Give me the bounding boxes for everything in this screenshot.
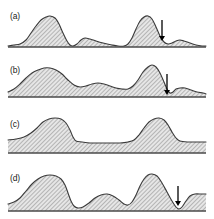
panel-d-label: (d) — [10, 174, 20, 183]
panel-a: (a) — [0, 0, 214, 54]
panel-c-label: (c) — [10, 120, 19, 129]
panel-d-plot — [0, 162, 214, 216]
panel-a-fill — [8, 16, 206, 47]
panel-a-label: (a) — [10, 12, 20, 21]
panel-b-plot — [0, 54, 214, 108]
multi-panel-figure: (a) (b) (c) (d) — [0, 0, 214, 219]
panel-b-label: (b) — [10, 66, 20, 75]
panel-a-plot — [0, 0, 214, 54]
panel-b: (b) — [0, 54, 214, 108]
panel-c-fill — [8, 118, 206, 153]
panel-c-plot — [0, 108, 214, 162]
panel-d-arrow-icon — [175, 186, 181, 206]
panel-c: (c) — [0, 108, 214, 162]
panel-d: (d) — [0, 162, 214, 216]
